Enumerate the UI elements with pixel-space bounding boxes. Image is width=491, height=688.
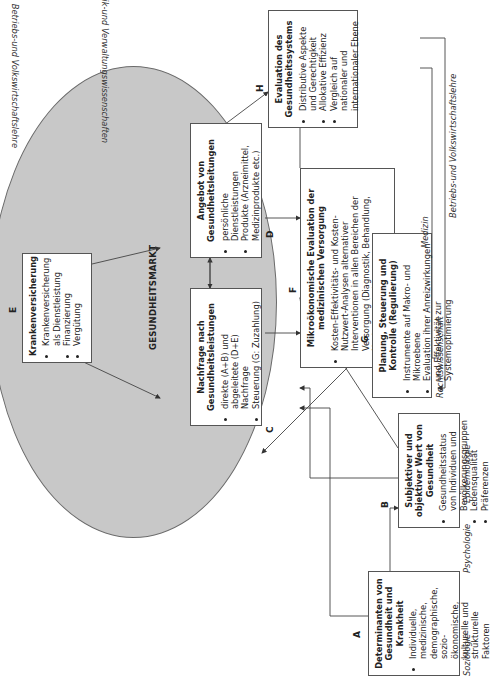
box-e-title: Krankenversicherung [28,260,38,356]
box-d-title: Angebot von Gesundheitsleitungen [196,130,217,251]
box-nachfrage: Nachfrage nach Gesundheitsleistungen dir… [190,288,262,426]
box-evaluation-gesundheitssystem: Evaluation des Gesundheitssystems Distri… [268,10,358,128]
box-f-title: Mikroökonomische Evaluation der medizini… [306,175,327,361]
box-h-item: Distributive Aspekte und Gerechtigkeit [298,17,319,111]
discipline-bwl-vwl-bottom: Betriebs-und Volkswirtschaftslehre [448,74,458,218]
discipline-soziologie: Soziologie [462,634,472,676]
box-g-item: Instrumente auf Makro- und Mikroebene [402,240,423,381]
box-angebot: Angebot von Gesundheitsleitungen persönl… [190,123,262,258]
box-e-item: Finanzierung [62,260,72,346]
box-b-item: Präferenzen [480,420,490,511]
letter-a: A [352,631,362,638]
letter-c: C [265,426,275,433]
letter-d: D [265,231,275,238]
box-a-item: Individuelle, medizinische, demographisc… [408,578,491,659]
box-a-title: Determinanten von Gesundheit und Krankhe… [374,578,405,669]
box-d-item: persönliche Dienstleistungen [220,130,241,241]
letter-b: B [380,501,390,508]
box-h-title: Evaluation des Gesundheitssystems [274,17,295,121]
discipline-rechtswissenschaft: Rechtswissenschaft [435,316,445,398]
letter-f: F [288,287,298,293]
discipline-medizin: Medizin [420,216,430,248]
box-d-item: Produkte (Arzneimittel, Medizinprodukte … [240,130,261,241]
box-e-item: Vergütung [72,260,82,346]
discipline-bwl-vwl-top: Betriebs-und Volkswirtschaftslehre [10,4,20,148]
box-b-title: Subjektiver und objektiver Wert von Gesu… [404,420,435,521]
discipline-politik: Politik-und Verwaltungswissenschaften [100,0,110,143]
box-c-item: Steuerung (G: Zuzahlung) [251,295,261,409]
box-c-title: Nachfrage nach Gesundheitsleistungen [196,295,217,419]
box-h-item: Allokative Effizienz [318,17,328,111]
box-c-item: direkte (A+B) und abgeleitete (D+E) Nach… [220,295,251,409]
discipline-psychologie: Psychologie [462,524,472,573]
box-wert-gesundheit: Subjektiver und objektiver Wert von Gesu… [398,413,460,528]
box-g-title: Planung, Steuerung und Kontrolle (Reguli… [378,240,399,391]
discipline-epidemiologie: Epidemiologie [462,444,472,503]
letter-e: E [8,307,18,313]
box-regulierung: Planung, Steuerung und Kontrolle (Reguli… [372,233,432,398]
box-h-item: Vergleich auf nationaler und internation… [329,17,360,111]
letter-g: G [360,336,370,343]
box-e-item: Krankenversicherung als Dienstleistung [41,260,62,346]
box-determinanten: Determinanten von Gesundheit und Krankhe… [368,571,460,676]
box-krankenversicherung: Krankenversicherung Krankenversicherung … [22,253,92,363]
letter-h: H [255,84,265,92]
